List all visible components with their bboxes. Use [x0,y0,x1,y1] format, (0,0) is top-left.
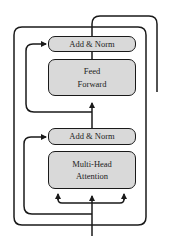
block-label: Forward [78,78,107,90]
block-label: Feed [84,65,101,77]
outer-loop-line [14,27,146,225]
block-label: Multi-Head [72,158,112,170]
qkv-split [58,196,124,203]
block-label: Attention [76,170,108,182]
add-norm-top-block: Add & Norm [48,36,136,52]
add-norm-bottom-block: Add & Norm [48,128,136,145]
feed-forward-block: Feed Forward [48,59,136,96]
multi-head-attention-block: Multi-Head Attention [48,151,136,189]
block-label: Add & Norm [69,130,114,142]
block-label: Add & Norm [69,38,114,50]
